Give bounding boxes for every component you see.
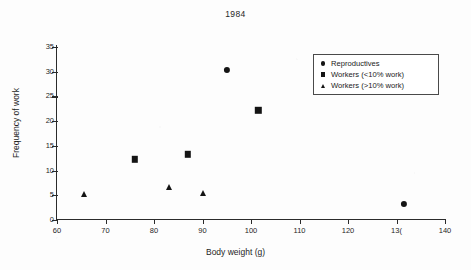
x-tick-label: 110 — [294, 226, 306, 235]
legend: ReproductivesWorkers (<10% work)Workers … — [313, 54, 439, 95]
y-tick-label: 5 — [50, 190, 54, 199]
chart-title: 1984 — [0, 9, 471, 19]
data-point-square — [255, 107, 261, 113]
x-tick-label: 80 — [150, 226, 158, 235]
legend-label: Reproductives — [331, 58, 380, 69]
x-tick-label: 100 — [245, 226, 258, 235]
y-tick-label: 30 — [46, 67, 54, 76]
x-tick-label: 120 — [342, 226, 355, 235]
legend-row[interactable]: Workers (>10% work) — [319, 80, 434, 91]
x-tick-label: 60 — [53, 226, 61, 235]
legend-row[interactable]: Reproductives — [319, 58, 434, 69]
data-point-triangle — [166, 184, 172, 190]
y-tick-label: 25 — [46, 91, 54, 100]
data-point-circle — [224, 67, 230, 73]
legend-triangle-icon — [319, 84, 327, 88]
y-tick-label: 10 — [46, 166, 54, 175]
y-tick-label: 15 — [46, 141, 54, 150]
data-point-square — [185, 151, 191, 157]
legend-label: Workers (<10% work) — [331, 69, 404, 80]
legend-label: Workers (>10% work) — [331, 80, 404, 91]
x-tick-label: 140 — [439, 226, 452, 235]
y-axis-title: Frequency of work — [11, 63, 21, 183]
legend-circle-icon — [319, 61, 327, 65]
legend-row[interactable]: Workers (<10% work) — [319, 69, 434, 80]
y-tick-label: 35 — [46, 42, 54, 51]
x-axis-title: Body weight (g) — [0, 247, 471, 257]
data-point-circle — [401, 201, 407, 207]
data-point-triangle — [81, 191, 87, 197]
x-tick-label: 90 — [198, 226, 206, 235]
x-tick-label: 70 — [101, 226, 109, 235]
x-tick-label: 13( — [391, 226, 402, 235]
legend-square-icon — [319, 72, 327, 77]
scatter-plot-figure: 1984 05101520253035 6070809010011012013(… — [0, 0, 471, 270]
data-point-square — [131, 156, 137, 162]
y-tick-label: 20 — [46, 116, 54, 125]
data-point-triangle — [200, 190, 206, 196]
x-tick-mark — [445, 219, 446, 224]
y-tick-label: 0 — [50, 215, 54, 224]
